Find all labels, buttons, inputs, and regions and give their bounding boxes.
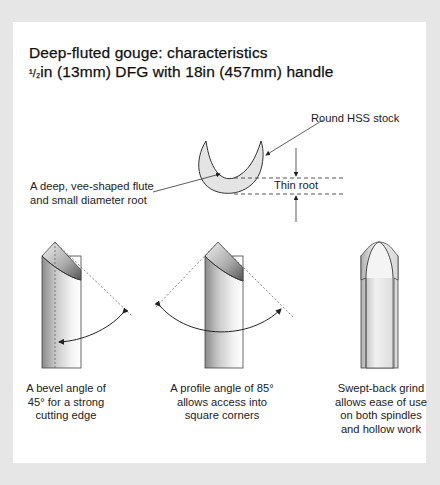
caption-line: A bevel angle of (22, 382, 110, 396)
caption-line: square corners (160, 409, 284, 423)
caption-line: Swept-back grind (325, 382, 437, 396)
caption-bevel: A bevel angle of 45° for a strong cuttin… (22, 382, 110, 423)
caption-line: A profile angle of 85° (160, 382, 284, 396)
profile-angle-tool (155, 242, 294, 368)
caption-line: cutting edge (22, 409, 110, 423)
caption-line: and hollow work (325, 423, 437, 437)
swept-back-grind-tool (361, 242, 398, 368)
bevel-angle-tool (42, 242, 132, 368)
caption-grind: Swept-back grind allows ease of use on b… (325, 382, 437, 436)
flute-label: A deep, vee-shaped flute and small diame… (30, 180, 154, 207)
stock-label: Round HSS stock (311, 112, 399, 126)
caption-line: on both spindles (325, 409, 437, 423)
flute-label-line-2: and small diameter root (30, 194, 154, 208)
caption-profile: A profile angle of 85° allows access int… (160, 382, 284, 423)
caption-line: allows ease of use (325, 396, 437, 410)
caption-line: allows access into (160, 396, 284, 410)
cross-section-crescent (199, 141, 263, 193)
flute-label-line-1: A deep, vee-shaped flute (30, 180, 154, 194)
thin-root-label: Thin root (274, 179, 318, 193)
caption-line: 45° for a strong (22, 396, 110, 410)
